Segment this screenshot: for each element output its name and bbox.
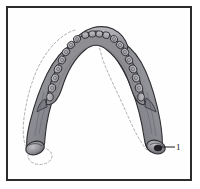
tooth [81,31,89,39]
mandible-illustration [0,0,200,189]
tooth [89,31,96,37]
tooth [102,31,110,39]
fracture-marker [154,145,162,151]
figure-root: 1 [0,0,200,189]
mandible-bone [24,27,167,158]
tooth [96,31,103,37]
callout-label-1: 1 [176,143,181,152]
